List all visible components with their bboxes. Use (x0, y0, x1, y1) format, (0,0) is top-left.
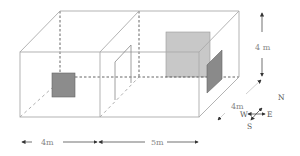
compass-west: W (240, 110, 248, 119)
middle-panel (115, 45, 131, 100)
left-width-label: 4m (41, 138, 54, 147)
height-label: 4 m (255, 43, 271, 52)
window-left (52, 73, 75, 97)
right-width-label: 5m (151, 138, 164, 147)
compass-east: E (267, 110, 272, 119)
compass-north: N (278, 93, 285, 102)
compass-south: S (247, 122, 252, 131)
back-window-right (166, 32, 210, 77)
compass-icon (248, 108, 265, 120)
building-diagram: 4m 5m 4 m 4m N E W S (0, 0, 300, 156)
hidden-floor-edges (20, 77, 139, 117)
